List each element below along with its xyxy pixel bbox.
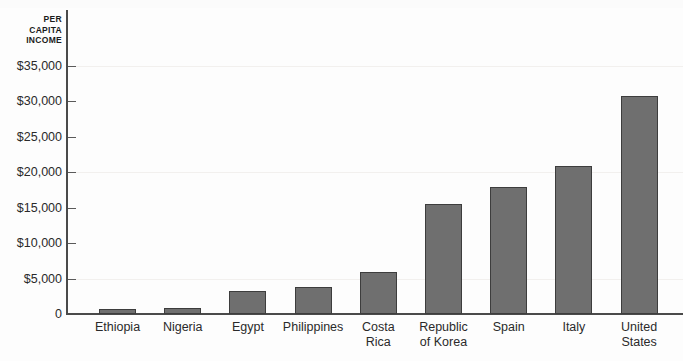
- bar: [490, 187, 527, 314]
- x-axis-tick-label: United States: [599, 320, 679, 350]
- bars-group: [0, 0, 683, 314]
- bar: [99, 309, 136, 314]
- bar: [164, 308, 201, 314]
- bar: [621, 96, 658, 314]
- per-capita-income-bar-chart: PER CAPITA INCOME 0$5,000$10,000$15,000$…: [0, 0, 683, 361]
- bar: [229, 291, 266, 314]
- bar: [555, 166, 592, 314]
- bar: [295, 287, 332, 314]
- bar: [425, 204, 462, 314]
- bar: [360, 272, 397, 314]
